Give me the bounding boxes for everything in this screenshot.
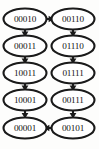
node-10011[interactable]: 10011 xyxy=(4,63,47,84)
node-label: 10011 xyxy=(14,68,36,78)
node-01111[interactable]: 01111 xyxy=(52,63,95,84)
node-00001[interactable]: 00001 xyxy=(4,118,47,139)
state-diagram: 00010 00011 10011 10001 00001 00110 0111… xyxy=(0,0,99,149)
node-01110[interactable]: 01110 xyxy=(52,36,95,57)
node-label: 00101 xyxy=(62,123,85,133)
node-label: 00111 xyxy=(62,95,84,105)
node-00010[interactable]: 00010 xyxy=(4,9,47,30)
node-label: 00011 xyxy=(14,41,36,51)
node-label: 01111 xyxy=(62,68,84,78)
node-00101[interactable]: 00101 xyxy=(52,118,95,139)
node-label: 00110 xyxy=(62,14,84,24)
node-10001[interactable]: 10001 xyxy=(4,90,47,111)
node-label: 10001 xyxy=(14,95,37,105)
node-00011[interactable]: 00011 xyxy=(4,36,47,57)
graph-canvas: 00010 00011 10011 10001 00001 00110 0111… xyxy=(0,0,99,149)
node-label: 00001 xyxy=(14,123,37,133)
node-label: 00010 xyxy=(14,14,37,24)
node-label: 01110 xyxy=(62,41,84,51)
node-00110[interactable]: 00110 xyxy=(52,9,95,30)
node-00111[interactable]: 00111 xyxy=(52,90,95,111)
